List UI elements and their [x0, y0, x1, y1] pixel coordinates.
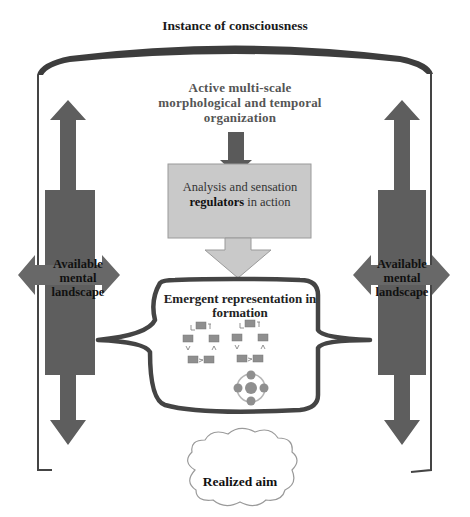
emergent-line-1: Emergent representation in — [150, 292, 330, 306]
active-organization-line-2: morphological and temporal — [150, 95, 330, 110]
left-mental-landscape-label: Available mental landscape — [42, 257, 114, 299]
realized-aim-label: Realized aim — [180, 474, 300, 490]
right-landscape-line-3: landscape — [366, 285, 438, 299]
active-organization-line-3: organization — [150, 110, 330, 125]
right-landscape-line-1: Available — [366, 257, 438, 271]
regulator-label-line-2: regulators in action — [170, 195, 310, 210]
diagram-title: Instance of consciousness — [0, 18, 470, 34]
regulator-label: Analysis and sensation regulators in act… — [170, 180, 310, 210]
active-organization-label: Active multi-scale morphological and tem… — [150, 80, 330, 125]
left-landscape-line-2: mental — [42, 271, 114, 285]
consciousness-frame-lid — [37, 46, 433, 76]
left-landscape-line-3: landscape — [42, 285, 114, 299]
realized-aim-cloud — [188, 428, 297, 505]
right-mental-landscape-label: Available mental landscape — [366, 257, 438, 299]
regulator-label-line-1: Analysis and sensation — [170, 180, 310, 195]
right-landscape-line-2: mental — [366, 271, 438, 285]
left-landscape-line-1: Available — [42, 257, 114, 271]
regulator-down-arrow — [205, 238, 271, 278]
active-organization-line-1: Active multi-scale — [150, 80, 330, 95]
emergent-representation-label: Emergent representation in formation — [150, 292, 330, 320]
regulator-label-rest: in action — [244, 195, 291, 209]
emergent-line-2: formation — [150, 306, 330, 320]
regulator-label-bold: regulators — [189, 195, 244, 209]
